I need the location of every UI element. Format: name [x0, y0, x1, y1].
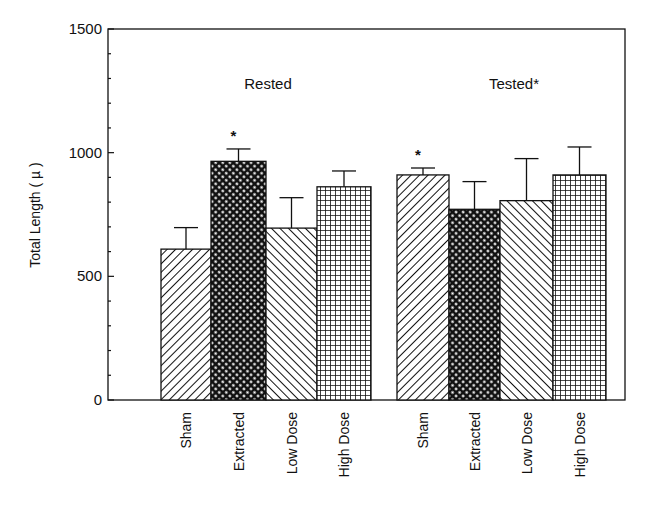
category-label: Low Dose — [519, 412, 535, 474]
group-labels: RestedTested* — [244, 75, 539, 92]
category-label: Sham — [415, 412, 431, 449]
bars: ** — [161, 127, 606, 400]
y-axis-title: Total Length ( µ ) — [27, 162, 43, 267]
category-labels: ShamExtractedLow DoseHigh DoseShamExtrac… — [178, 412, 588, 478]
bar-rested-high-dose — [317, 171, 371, 400]
significance-marker: * — [231, 127, 237, 144]
bar-tested-high-dose — [553, 147, 606, 400]
bar-rect — [553, 175, 606, 400]
bar-rect — [317, 187, 371, 400]
significance-marker: * — [415, 146, 421, 163]
bar-rect — [449, 209, 500, 400]
category-label: Sham — [178, 412, 194, 449]
category-label: Extracted — [231, 412, 247, 471]
bar-rect — [161, 249, 211, 400]
bar-rect — [500, 201, 553, 400]
bar-tested-sham: * — [397, 146, 449, 400]
y-axis: 050010001500 — [69, 20, 114, 408]
y-tick-label: 500 — [77, 267, 102, 284]
y-tick-label: 1500 — [69, 20, 102, 37]
bar-tested-extracted — [449, 182, 500, 400]
group-label-tested: Tested* — [489, 75, 539, 92]
bar-rested-sham — [161, 228, 211, 400]
category-label: Low Dose — [284, 412, 300, 474]
bar-rect — [397, 175, 449, 400]
group-label-rested: Rested — [244, 75, 292, 92]
category-label: Extracted — [467, 412, 483, 471]
category-label: High Dose — [336, 412, 352, 478]
y-tick-label: 1000 — [69, 144, 102, 161]
bar-chart: 050010001500 ** RestedTested* ShamExtrac… — [0, 0, 645, 515]
category-label: High Dose — [572, 412, 588, 478]
bar-rect — [266, 228, 317, 400]
bar-tested-low-dose — [500, 159, 553, 400]
bar-rested-extracted: * — [211, 127, 266, 400]
y-tick-label: 0 — [94, 391, 102, 408]
bar-rested-low-dose — [266, 198, 317, 400]
bar-rect — [211, 161, 266, 400]
